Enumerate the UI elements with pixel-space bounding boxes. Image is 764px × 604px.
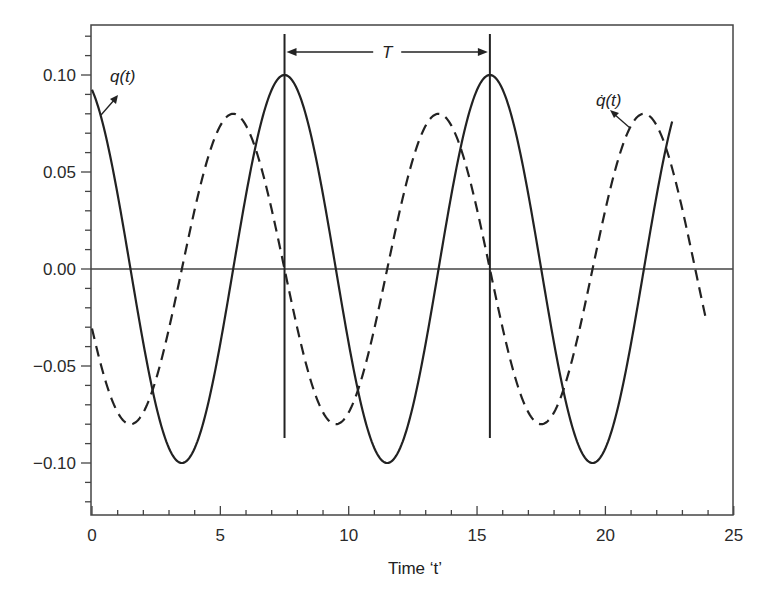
q-label: q(t): [110, 67, 136, 86]
y-tick-label: −0.10: [33, 454, 76, 473]
period-label: T: [382, 43, 394, 62]
q-annotation: q(t): [101, 67, 136, 115]
chart: 05101520250.100.050.00−0.05−0.10 T q(t) …: [0, 0, 764, 604]
qdot-annotation: q̇(t): [596, 91, 630, 128]
x-tick-label: 25: [724, 526, 743, 545]
plot-frame: [91, 25, 733, 515]
x-tick-label: 5: [216, 526, 225, 545]
x-tick-label: 20: [596, 526, 615, 545]
period-arrow: T: [287, 43, 488, 62]
y-tick-label: 0.10: [43, 66, 76, 85]
x-tick-label: 15: [468, 526, 487, 545]
x-tick-label: 0: [87, 526, 96, 545]
axis-ticks: [81, 36, 734, 515]
x-tick-label: 10: [339, 526, 358, 545]
y-tick-label: −0.05: [33, 357, 76, 376]
qdot-label: q̇(t): [596, 91, 622, 110]
y-tick-label: 0.05: [43, 163, 76, 182]
y-tick-label: 0.00: [43, 260, 76, 279]
x-axis-label: Time ‘t’: [388, 559, 442, 578]
